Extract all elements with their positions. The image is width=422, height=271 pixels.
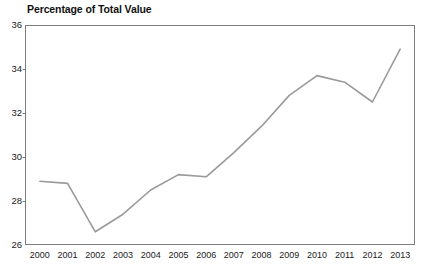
line-chart: Percentage of Total Value 262830323436 2… [0, 0, 422, 271]
plot-area [0, 0, 422, 271]
data-series-line [40, 49, 400, 232]
